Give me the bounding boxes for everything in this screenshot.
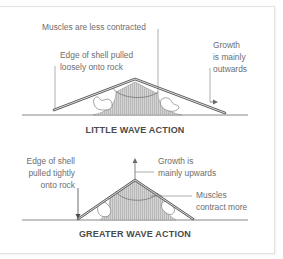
panel-little-wave-action: Muscles are less contracted Edge of shel…: [22, 22, 248, 135]
label-edge-loose-2: loosely onto rock: [60, 62, 124, 72]
label-growth-outwards-3: outwards: [213, 64, 247, 74]
label-growth-upwards-1: Growth is: [158, 156, 193, 166]
label-edge-tight-2: pulled tightly: [28, 168, 75, 178]
label-muscles-more-2: contract more: [196, 202, 248, 212]
label-edge-tight-1: Edge of shell: [27, 156, 76, 166]
panel-title-greater-wave: GREATER WAVE ACTION: [79, 229, 191, 239]
arrowhead-up-icon: [133, 158, 138, 163]
label-edge-loose-1: Edge of shell pulled: [60, 50, 133, 60]
label-growth-upwards-2: mainly upwards: [158, 168, 216, 178]
foot-left: [94, 97, 112, 110]
label-muscles-more-1: Muscles: [196, 190, 227, 200]
label-growth-outwards-1: Growth: [213, 40, 240, 50]
label-growth-outwards-2: is mainly: [213, 52, 246, 62]
arrowhead-right-icon: [213, 100, 218, 105]
panel-title-little-wave: LITTLE WAVE ACTION: [85, 125, 184, 135]
limpet-diagram: Muscles are less contracted Edge of shel…: [0, 0, 283, 259]
label-edge-tight-3: onto rock: [41, 180, 76, 190]
label-muscles-less-contracted: Muscles are less contracted: [42, 22, 146, 32]
panel-greater-wave-action: Edge of shell pulled tightly onto rock G…: [22, 156, 248, 239]
